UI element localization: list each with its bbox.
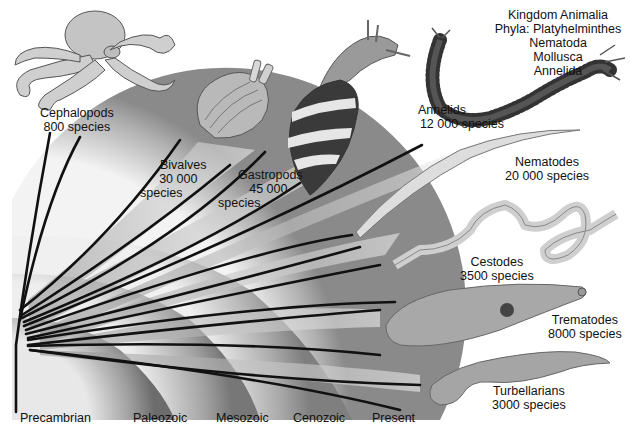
species-count: 3000 species: [492, 398, 566, 412]
kingdom-phyla-legend: Kingdom Animalia Phyla: Platyhelminthes …: [488, 8, 628, 78]
nematodes-label: Nematodes 20 000 species: [505, 155, 589, 183]
species-count: 45 000: [218, 182, 303, 196]
bivalves-label: Bivalves 30 000 species: [140, 158, 207, 200]
group-name: Annelids: [418, 103, 506, 117]
annelids-label: Annelids 12 000 species: [418, 103, 506, 131]
group-name: Gastropods: [218, 168, 303, 182]
group-name: Bivalves: [140, 158, 207, 172]
trematodes-label: Trematodes 8000 species: [548, 313, 622, 341]
phylogeny-diagram: Cephalopods 800 species Bivalves 30 000 …: [0, 0, 630, 435]
era-precambrian: Precambrian: [20, 411, 91, 425]
phylum-mollusca: Mollusca: [488, 50, 628, 64]
species-count: 12 000 species: [418, 117, 506, 131]
species-count: 20 000 species: [505, 169, 589, 183]
species-count: 30 000: [140, 172, 207, 186]
gastropods-label: Gastropods 45 000 species: [218, 168, 303, 210]
phylum-nematoda: Nematoda: [488, 36, 628, 50]
group-name: Cestodes: [460, 255, 534, 269]
group-name: Cephalopods: [40, 106, 114, 120]
species-unit: species: [218, 196, 303, 210]
turbellarians-label: Turbellarians 3000 species: [492, 384, 566, 412]
era-cenozoic: Cenozoic: [293, 411, 345, 425]
era-mesozoic: Mesozoic: [216, 411, 269, 425]
cephalopods-label: Cephalopods 800 species: [40, 106, 114, 134]
species-unit: species: [140, 186, 207, 200]
species-count: 3500 species: [460, 269, 534, 283]
group-name: Turbellarians: [492, 384, 566, 398]
phyla-heading: Phyla: Platyhelminthes: [488, 22, 628, 36]
era-present: Present: [372, 411, 415, 425]
era-paleozoic: Paleozoic: [133, 411, 187, 425]
group-name: Trematodes: [548, 313, 622, 327]
species-count: 800 species: [40, 120, 114, 134]
phylum-annelida: Annelida: [488, 64, 628, 78]
group-name: Nematodes: [505, 155, 589, 169]
species-count: 8000 species: [548, 327, 622, 341]
kingdom-title: Kingdom Animalia: [488, 8, 628, 22]
cestodes-label: Cestodes 3500 species: [460, 255, 534, 283]
